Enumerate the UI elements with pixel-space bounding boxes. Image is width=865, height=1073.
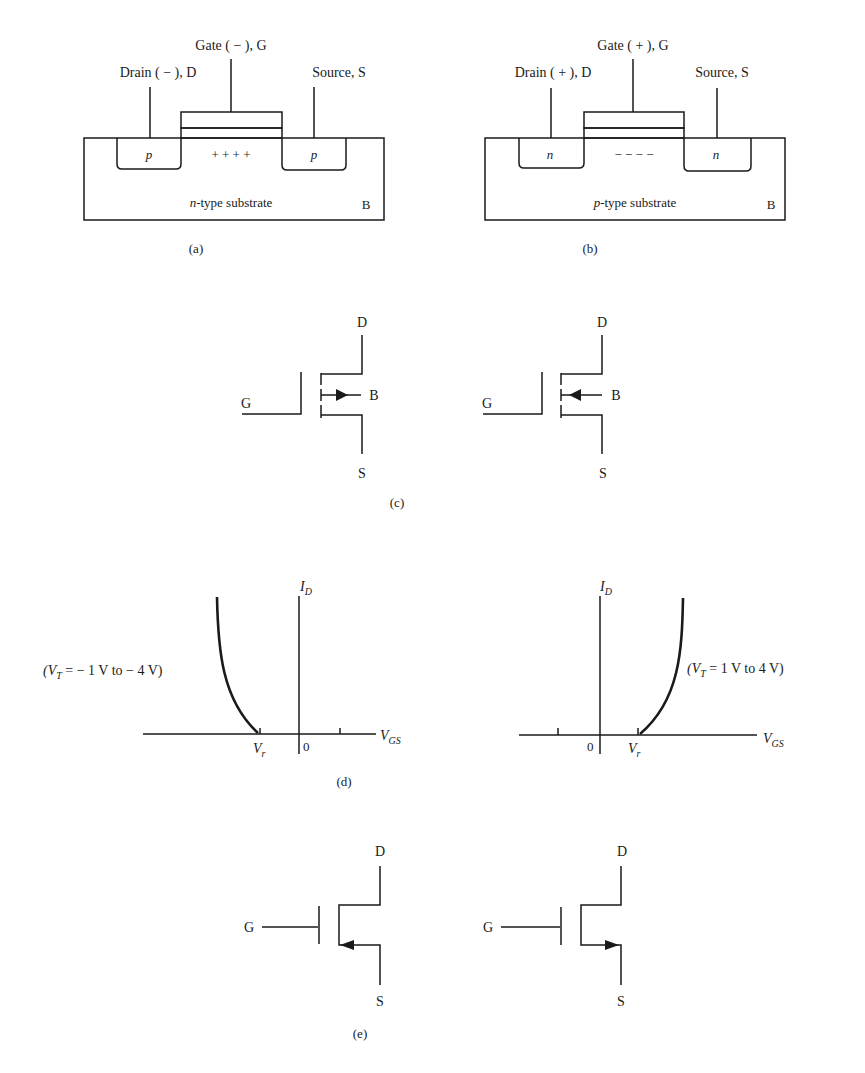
gate-oxide	[181, 128, 282, 138]
vt-label: Vr	[253, 741, 266, 759]
panel-a-cross-section: Gate ( − ), G Drain ( − ), D Source, S p…	[84, 38, 384, 256]
body-label: B	[369, 388, 378, 403]
y-axis-label: ID	[599, 579, 613, 597]
source-label: S	[358, 466, 366, 481]
caption-b: (b)	[582, 241, 597, 256]
drain-label: D	[357, 315, 367, 330]
symbol-e-right: D G S	[483, 844, 627, 1009]
vt-range-annotation: (VT = − 1 V to − 4 V)	[43, 663, 163, 681]
drain-label: D	[597, 315, 607, 330]
caption-a: (a)	[189, 241, 203, 256]
body-arrow-icon	[569, 389, 581, 401]
transfer-curve-right: ID VGS 0 Vr (VT = 1 V to 4 V)	[519, 579, 784, 759]
source-label: Source, S	[312, 65, 366, 80]
origin-label: 0	[587, 739, 594, 754]
source-label: S	[376, 994, 384, 1009]
source-arrow-icon	[340, 940, 354, 950]
gate-label: G	[482, 396, 492, 411]
body-label: B	[362, 197, 371, 212]
x-axis-label: VGS	[380, 728, 401, 746]
mosfet-figure: Gate ( − ), G Drain ( − ), D Source, S p…	[0, 0, 865, 1073]
symbol-c-right: D G B S	[482, 315, 621, 481]
channel-path	[339, 866, 380, 985]
caption-c: (c)	[390, 495, 404, 510]
caption-e: (e)	[353, 1026, 367, 1041]
gate-metal	[181, 112, 282, 128]
body-arrow-icon	[336, 389, 348, 401]
x-axis-label: VGS	[763, 731, 784, 749]
panel-e-symbols-3terminal: D G S D G S (e)	[244, 844, 627, 1041]
gate-metal	[584, 112, 684, 128]
drain-label: D	[617, 844, 627, 859]
drain-lead	[321, 335, 362, 374]
drain-label: D	[375, 844, 385, 859]
drain-region-type: p	[145, 147, 153, 162]
gate-label: Gate ( − ), G	[195, 38, 266, 54]
channel-charges: − − − −	[614, 147, 653, 162]
panel-b-cross-section: Gate ( + ), G Drain ( + ), D Source, S n…	[485, 38, 785, 256]
gate-oxide	[584, 128, 684, 138]
source-region-type: p	[310, 147, 318, 162]
source-arrow-icon	[605, 940, 619, 950]
source-region-type: n	[713, 147, 720, 162]
substrate-label: n-type substrate	[190, 195, 273, 210]
drain-lead	[561, 335, 602, 374]
id-curve	[217, 597, 258, 733]
vt-range-annotation: (VT = 1 V to 4 V)	[687, 661, 784, 679]
y-axis-label: ID	[299, 579, 313, 597]
drain-region-type: n	[547, 147, 554, 162]
symbol-e-left: D G S	[244, 844, 385, 1009]
body-label: B	[611, 388, 620, 403]
channel-path	[581, 866, 621, 985]
vt-label: Vr	[628, 741, 641, 759]
source-label: S	[617, 994, 625, 1009]
gate-label: G	[241, 396, 251, 411]
drain-label: Drain ( + ), D	[515, 65, 592, 81]
gate-label: G	[244, 920, 254, 935]
id-curve	[640, 598, 683, 734]
gate-label: Gate ( + ), G	[597, 38, 668, 54]
source-lead	[561, 415, 602, 454]
gate-label: G	[483, 920, 493, 935]
channel-charges: + + + +	[211, 147, 250, 162]
body-label: B	[767, 197, 776, 212]
transfer-curve-left: ID VGS 0 Vr (VT = − 1 V to − 4 V)	[43, 579, 401, 759]
caption-d: (d)	[336, 774, 351, 789]
substrate-label: p-type substrate	[593, 195, 677, 210]
source-lead	[321, 415, 362, 454]
drain-label: Drain ( − ), D	[120, 65, 197, 81]
panel-d-transfer-curves: ID VGS 0 Vr (VT = − 1 V to − 4 V) ID VGS…	[43, 579, 784, 789]
source-label: S	[599, 466, 607, 481]
origin-label: 0	[303, 739, 310, 754]
panel-c-symbols-4terminal: D G B S D G B S (c)	[241, 315, 621, 510]
source-label: Source, S	[695, 65, 749, 80]
symbol-c-left: D G B S	[241, 315, 379, 481]
